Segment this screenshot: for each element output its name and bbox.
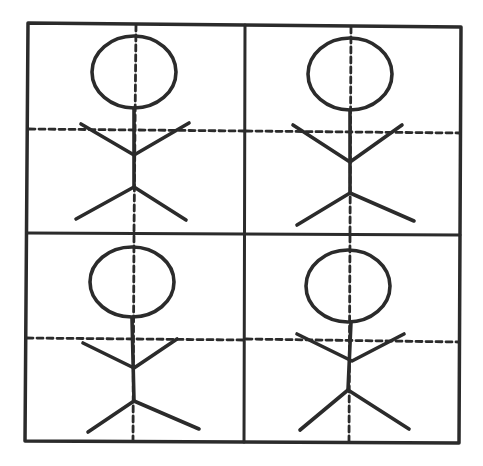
head: [90, 247, 174, 317]
stick-figure-grid-diagram: [0, 0, 483, 466]
stick-figure-top-left: [76, 36, 189, 220]
grid-divider-horizontal: [27, 233, 460, 235]
head: [306, 250, 390, 322]
